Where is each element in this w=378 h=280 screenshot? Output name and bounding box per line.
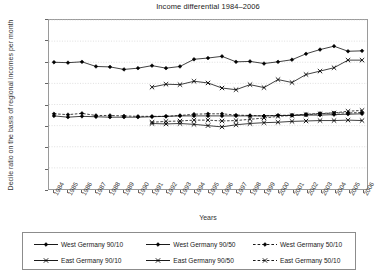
data-point-marker	[332, 44, 336, 48]
data-point-marker	[304, 52, 308, 56]
data-point-marker	[108, 65, 112, 69]
chart-figure: Income differential 1984–2006 Decile rat…	[0, 0, 378, 280]
data-point-marker	[122, 68, 126, 72]
data-point-marker	[136, 66, 140, 70]
legend-label: East Germany 90/50	[173, 257, 233, 264]
data-point-marker	[178, 65, 182, 69]
x-tick-mark	[363, 190, 364, 193]
y-axis-title: Decile ratio on the basis of regional in…	[0, 19, 22, 190]
data-point-marker	[66, 61, 70, 65]
x-tick-mark	[109, 190, 110, 193]
data-point-marker	[80, 60, 84, 64]
data-point-marker	[206, 56, 210, 60]
x-tick-mark	[95, 190, 96, 193]
plot-area	[48, 19, 368, 190]
series-0	[52, 44, 364, 71]
x-tick-mark	[67, 190, 68, 193]
chart-title: Income differential 1984–2006	[48, 2, 368, 11]
legend-label: West Germany 90/50	[173, 241, 235, 248]
legend-item-east-50-10[interactable]: East Germany 50/10	[252, 252, 351, 268]
data-point-marker	[276, 60, 280, 64]
line-marker-icon	[252, 255, 278, 266]
data-point-marker	[44, 242, 48, 246]
data-point-marker	[263, 242, 267, 246]
x-tick-mark	[222, 190, 223, 193]
legend-row-east: East Germany 90/10 East Germany 90/50 Ea…	[27, 252, 351, 268]
x-tick-mark	[123, 190, 124, 193]
x-tick-mark	[321, 190, 322, 193]
data-point-marker	[164, 119, 168, 123]
line-marker-icon	[252, 239, 278, 250]
legend-label: West Germany 90/10	[61, 241, 123, 248]
chart-legend: West Germany 90/10 West Germany 90/50 We…	[22, 232, 356, 270]
x-tick-mark	[152, 190, 153, 193]
line-marker-icon	[33, 255, 59, 266]
data-point-marker	[262, 62, 266, 66]
x-tick-mark	[335, 190, 336, 193]
x-tick-mark	[208, 190, 209, 193]
y-axis-title-text: Decile ratio on the basis of regional in…	[6, 19, 15, 190]
x-axis-title: Years	[48, 214, 368, 221]
line-marker-icon	[145, 239, 171, 250]
data-point-marker	[248, 60, 252, 64]
legend-item-east-90-10[interactable]: East Germany 90/10	[27, 252, 145, 268]
data-point-marker	[66, 113, 70, 117]
data-point-marker	[52, 60, 56, 64]
x-tick-mark	[236, 190, 237, 193]
data-point-marker	[192, 57, 196, 61]
legend-item-west-50-10[interactable]: West Germany 50/10	[252, 236, 351, 252]
data-point-marker	[220, 54, 224, 58]
plot-canvas	[49, 20, 367, 189]
x-tick-mark	[81, 190, 82, 193]
x-tick-mark	[264, 190, 265, 193]
x-tick-mark	[138, 190, 139, 193]
legend-label: East Germany 50/10	[280, 257, 340, 264]
legend-label: West Germany 50/10	[280, 241, 342, 248]
x-tick-mark	[349, 190, 350, 193]
x-tick-mark	[307, 190, 308, 193]
x-tick-mark	[194, 190, 195, 193]
data-point-marker	[318, 48, 322, 52]
x-tick-mark	[278, 190, 279, 193]
data-point-marker	[80, 111, 84, 115]
data-point-marker	[346, 49, 350, 53]
y-tick-mark	[45, 190, 48, 191]
legend-item-west-90-50[interactable]: West Germany 90/50	[145, 236, 252, 252]
legend-item-east-90-50[interactable]: East Germany 90/50	[145, 252, 252, 268]
series-1	[150, 58, 364, 92]
data-point-marker	[164, 114, 168, 118]
data-point-marker	[164, 66, 168, 70]
legend-item-west-90-10[interactable]: West Germany 90/10	[27, 236, 145, 252]
x-tick-mark	[293, 190, 294, 193]
line-marker-icon	[33, 239, 59, 250]
x-tick-mark	[166, 190, 167, 193]
x-tick-mark	[53, 190, 54, 193]
data-point-marker	[234, 60, 238, 64]
line-marker-icon	[145, 255, 171, 266]
data-point-marker	[150, 64, 154, 68]
data-point-marker	[360, 49, 364, 53]
x-tick-mark	[250, 190, 251, 193]
data-point-marker	[94, 65, 98, 69]
legend-row-west: West Germany 90/10 West Germany 90/50 We…	[27, 236, 351, 252]
data-point-marker	[156, 242, 160, 246]
legend-label: East Germany 90/10	[61, 257, 121, 264]
x-tick-mark	[180, 190, 181, 193]
data-point-marker	[290, 58, 294, 62]
